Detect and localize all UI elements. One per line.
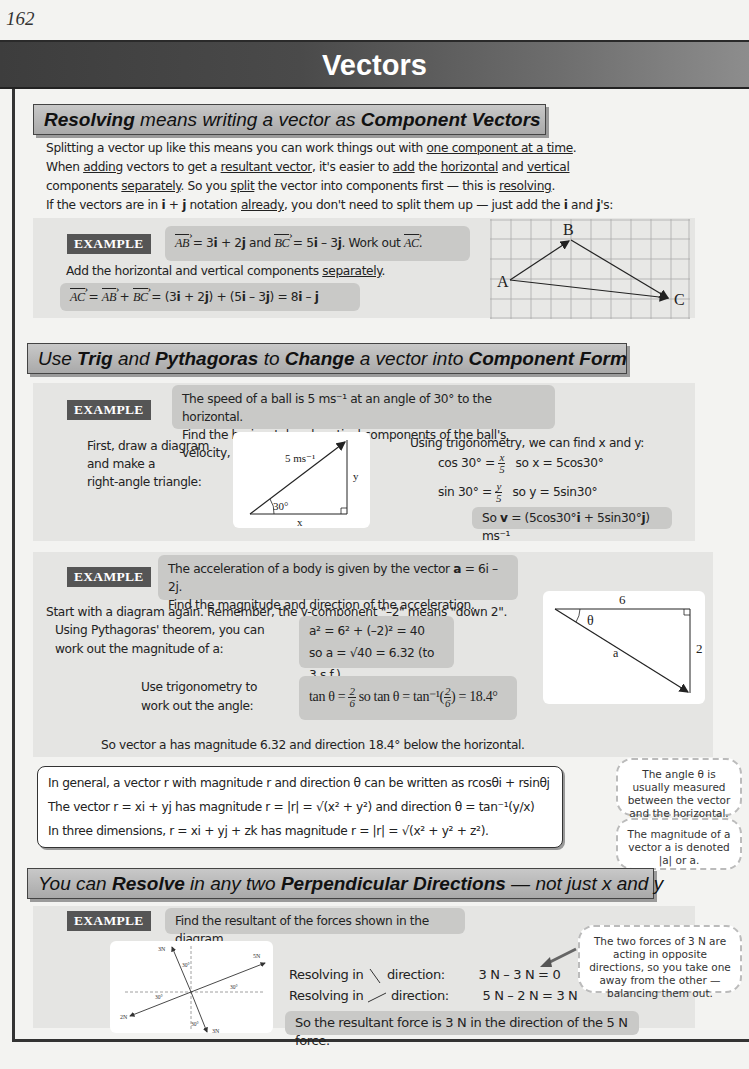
section-header-trig: Use Trig and Pythagoras to Change a vect… — [27, 343, 627, 374]
svg-text:30°: 30° — [182, 962, 190, 968]
side-note-forces: The two forces of 3 N are acting in oppo… — [578, 925, 742, 993]
diagonal-up-icon — [367, 991, 387, 1003]
diagonal-down-icon — [367, 968, 383, 984]
svg-text:30°: 30° — [155, 994, 163, 1000]
example-tag: EXAMPLE — [67, 234, 151, 254]
resolve-line-2: Resolving in direction: 5 N – 2 N = 3 N — [289, 986, 577, 1005]
general-formula-box: In general, a vector r with magnitude r … — [37, 766, 563, 848]
svg-text:2N: 2N — [120, 1014, 128, 1020]
velocity-result: So v = (5cos30°i + 5sin30°j) ms⁻¹ — [472, 507, 672, 529]
formula-line: In general, a vector r with magnitude r … — [48, 771, 552, 795]
header-bold: Component Vectors — [361, 109, 541, 130]
title-bar: Vectors — [0, 40, 749, 89]
section-header-perpendicular: You can Resolve in any two Perpendicular… — [27, 868, 654, 899]
label-a: A — [497, 273, 509, 290]
svg-text:5 ms⁻¹: 5 ms⁻¹ — [285, 452, 315, 464]
formula-line: In three dimensions, r = xi + yj + zk ha… — [48, 819, 552, 843]
intro-line: When adding vectors to get a resultant v… — [46, 158, 706, 177]
intro-line: components separately. So you split the … — [46, 177, 706, 196]
svg-text:2: 2 — [696, 641, 703, 656]
resolve-line-1: Resolving in direction: 3 N – 3 N = 0 — [289, 965, 560, 984]
svg-text:3N: 3N — [212, 1028, 220, 1033]
header-text: means writing a vector as — [135, 109, 361, 130]
trig-intro: Using trigonometry, we can find x and y: — [410, 434, 644, 453]
example-question: The acceleration of a body is given by t… — [158, 555, 518, 600]
cos-equation: cos 30° = x5 so x = 5cos30° — [438, 452, 603, 475]
acceleration-conclusion: So vector a has magnitude 6.32 and direc… — [101, 736, 525, 755]
svg-text:x: x — [297, 516, 303, 528]
section-header-resolving: Resolving means writing a vector as Comp… — [33, 104, 546, 135]
trig-text: Use trigonometry to work out the angle: — [141, 678, 257, 716]
example-question: Find the resultant of the forces shown i… — [165, 908, 465, 934]
arrow-icon — [538, 947, 578, 969]
formula-line: The vector r = xi + yj has magnitude r =… — [48, 795, 552, 819]
pythagoras-working: a² = 6² + (–2)² = 40 so a = √40 = 6.32 (… — [299, 616, 454, 668]
example-tag: EXAMPLE — [67, 567, 151, 587]
header-bold: Resolving — [44, 109, 135, 130]
side-note-magnitude: The magnitude of a vector a is denoted |… — [616, 818, 742, 870]
acceleration-triangle-diagram: 6 2 a θ — [543, 591, 705, 704]
angle-working: tan θ = 26 so tan θ = tan⁻¹(26) = 18.4° — [299, 676, 517, 720]
svg-text:y: y — [353, 470, 359, 482]
resultant-answer: So the resultant force is 3 N in the dir… — [285, 1011, 639, 1035]
forces-diagram: 3N 5N 2N 3N 30° 30° 30° 30° — [110, 941, 273, 1033]
svg-text:6: 6 — [619, 592, 626, 607]
example-tag: EXAMPLE — [67, 911, 151, 931]
sin-equation: sin 30° = y5 so y = 5sin30° — [438, 481, 597, 504]
example-answer: AC = AB + BC = (3i + 2j) + (5i – 3j) = 8… — [60, 283, 360, 311]
example-question: The speed of a ball is 5 ms⁻¹ at an angl… — [172, 385, 555, 429]
diagram-instruction: First, draw a diagram and make a right-a… — [87, 437, 209, 491]
example-tag: EXAMPLE — [67, 400, 151, 420]
example-question: AB = 3i + 2j and BC = 5i – 3j. Work out … — [165, 226, 470, 261]
svg-text:30°: 30° — [230, 984, 238, 990]
intro-line: If the vectors are in i + j notation alr… — [46, 196, 706, 215]
svg-text:a: a — [613, 646, 619, 660]
page-number: 162 — [6, 8, 35, 30]
svg-text:5N: 5N — [253, 953, 261, 959]
velocity-triangle-diagram: 5 ms⁻¹ 30° y x — [233, 432, 370, 528]
label-b: B — [563, 221, 574, 238]
svg-text:θ: θ — [587, 613, 594, 628]
svg-text:30°: 30° — [273, 500, 288, 512]
vector-triangle-diagram: B A C — [490, 219, 690, 319]
intro-paragraph: Splitting a vector up like this means yo… — [46, 139, 706, 215]
side-note-angle: The angle θ is usually measured between … — [616, 758, 742, 816]
svg-text:3N: 3N — [158, 946, 166, 952]
pythagoras-text: Using Pythagoras' theorem, you can work … — [55, 621, 264, 659]
example-instruction: Add the horizontal and vertical componen… — [66, 262, 385, 281]
label-c: C — [674, 291, 685, 308]
svg-text:30°: 30° — [191, 1021, 199, 1027]
page-title: Vectors — [0, 49, 749, 82]
intro-line: Splitting a vector up like this means yo… — [46, 139, 706, 158]
